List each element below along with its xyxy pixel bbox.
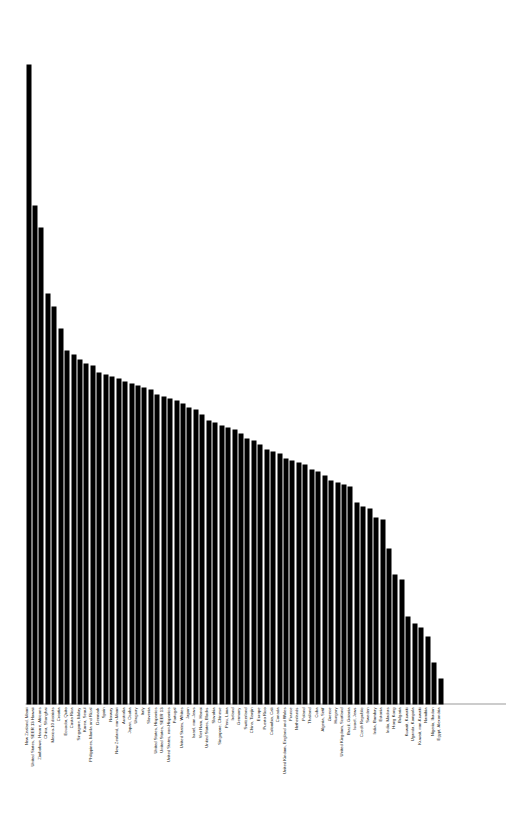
bar-row: Zimbabwe, Harare, Africans	[38, 44, 44, 704]
bar-category-label: Croatia	[55, 707, 61, 721]
bar-category-label: Japan	[184, 707, 190, 719]
bar-category-label: Germany	[235, 707, 241, 724]
bar-category-label: Slovakia	[210, 707, 216, 723]
bar-category-label: Peru, Lima	[223, 707, 229, 727]
bar-row: United Kindom, England and Wales	[283, 44, 289, 704]
bar-category-label: Sweden	[364, 707, 370, 722]
bar-category-label: Namibia	[422, 707, 428, 723]
bar-category-label: Mexico-10 districts	[49, 707, 55, 742]
bar	[167, 398, 172, 704]
bar-row: Singapore, Malay	[77, 44, 83, 704]
bar-category-label: United States, Hispanics	[152, 707, 158, 753]
bar	[347, 486, 352, 704]
bar-category-label: Poland	[300, 707, 306, 720]
bar-row: Puerto Rico	[263, 44, 269, 704]
bar-category-label: United States, Whites	[178, 707, 184, 748]
bar-category-label: Portugal	[171, 707, 177, 723]
bar	[322, 475, 327, 704]
bar	[64, 350, 69, 704]
bar-category-label: Kuwait, non-Kuwaiti	[416, 707, 422, 744]
bar-category-label: Cuba	[313, 707, 319, 717]
bar-category-label: Ireland	[229, 707, 235, 720]
bar-category-label: Israel, Jews	[351, 707, 357, 729]
bar-row: Philippines, Manila and Rizal	[89, 44, 95, 704]
bar-category-label: China, Shanghai	[42, 707, 48, 738]
bar-category-label: Viet Nam, Hanoi	[197, 707, 203, 738]
bar	[405, 616, 410, 704]
bar-row: United States, Whites	[180, 44, 186, 704]
bar-row: Uganda, Kampala	[411, 44, 417, 704]
bar-category-label: Uganda, Kampala	[409, 707, 415, 741]
bar-category-label: Japan, Osaka	[126, 707, 132, 733]
bar-row: Poland	[302, 44, 308, 704]
bar-row: Czech Republic	[360, 44, 366, 704]
bar	[135, 385, 140, 704]
bar	[360, 506, 365, 704]
bar-row: Denmark	[96, 44, 102, 704]
bar-category-label: Hong Kong	[390, 707, 396, 728]
bar-category-label: Australia	[120, 707, 126, 723]
bar	[38, 227, 43, 704]
bar	[103, 374, 108, 704]
bar	[399, 579, 404, 704]
bar-category-label: Estonia	[377, 707, 383, 721]
bar-row: Costa Rica	[70, 44, 76, 704]
bar	[193, 409, 198, 704]
bar	[244, 438, 249, 704]
plot-area: New Zealand, MaoriUnited States, SEER 13…	[0, 0, 506, 829]
bar	[296, 462, 301, 704]
bar-row: Europe	[257, 44, 263, 704]
bar	[277, 453, 282, 704]
bar-row: Slovakia	[212, 44, 218, 704]
bar-row: Sweden	[366, 44, 372, 704]
bar-row: Spain	[102, 44, 108, 704]
bar-row: Namibia	[424, 44, 430, 704]
bar-row: China, Shanghai	[44, 44, 50, 704]
bar-category-label: Bulgaria	[396, 707, 402, 723]
bar-series: New Zealand, MaoriUnited States, SEER 13…	[25, 44, 481, 704]
bar-row: Australia	[122, 44, 128, 704]
bar-row: Kuwait, non-Kuwaiti	[418, 44, 424, 704]
bar	[232, 429, 237, 704]
bar	[90, 365, 95, 704]
bar-category-label: Europe	[255, 707, 261, 721]
bar	[367, 508, 372, 704]
bar-category-label: Kuwait, Kuwaiti	[403, 707, 409, 736]
bar-category-label: India, Bombay	[371, 707, 377, 734]
bar	[302, 464, 307, 704]
bar	[335, 482, 340, 704]
bar	[438, 678, 443, 704]
bar-row: Singapore, Chinese	[218, 44, 224, 704]
axis-area: 02468101214 Annual incidence rates per m…	[481, 0, 506, 829]
bar	[380, 519, 385, 704]
bar	[141, 387, 146, 704]
bar-row: Hungary	[334, 44, 340, 704]
bar	[238, 433, 243, 704]
bar	[418, 627, 423, 704]
bar-category-label: Thailand	[306, 707, 312, 723]
bar-row: France	[289, 44, 295, 704]
bar	[77, 359, 82, 704]
bar-category-label: Norway	[107, 707, 113, 721]
bar-row: Thailand	[308, 44, 314, 704]
bar-row: Kuwait, Kuwaiti	[405, 44, 411, 704]
bar	[154, 394, 159, 704]
bar-category-label: Israel, non-Jews	[190, 707, 196, 738]
bar	[58, 328, 63, 704]
bar-row: Greece	[328, 44, 334, 704]
bar-row: Israel, non-Jews	[192, 44, 198, 704]
bar	[206, 420, 211, 704]
bar-category-label: United Kingdom, Scotland	[338, 707, 344, 756]
bar-row: Canada	[276, 44, 282, 704]
bar-row: Norway	[109, 44, 115, 704]
bar-row: Estonia	[379, 44, 385, 704]
bar-row: Netherlands	[295, 44, 301, 704]
bar-category-label: United States, SEER 13 Hawaii	[29, 707, 35, 766]
bar-row: Brazil, Goiania	[347, 44, 353, 704]
bar-category-label: Puerto Rico	[261, 707, 267, 729]
bar-category-label: Costa Rica	[68, 707, 74, 728]
bar-category-label: New Zealand, Maori	[23, 707, 29, 745]
bar-row: Slovenia	[147, 44, 153, 704]
bar-row: India, Madras	[386, 44, 392, 704]
bar-row: Hong Kong	[392, 44, 398, 704]
